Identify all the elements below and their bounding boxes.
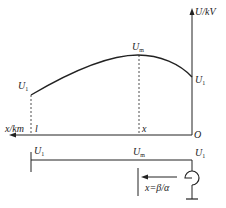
x-axis-label: x/km bbox=[5, 124, 24, 134]
curve-label-left: U1 bbox=[18, 81, 28, 92]
voltage-curve bbox=[31, 55, 192, 95]
shunt-reactor-icon bbox=[192, 171, 199, 185]
x-end-label: l bbox=[35, 124, 38, 134]
line-label-right: U1 bbox=[195, 148, 205, 159]
arrow-label: x=β/α bbox=[145, 183, 169, 193]
line-label-mid: Um bbox=[133, 147, 145, 158]
diagram-graphics bbox=[0, 0, 226, 208]
y-axis-arrow-icon bbox=[190, 8, 195, 15]
x-mid-label: x bbox=[142, 124, 146, 134]
curve-label-peak: Um bbox=[132, 42, 144, 53]
origin-label: O bbox=[194, 130, 201, 140]
voltage-distribution-diagram: U/kV x/km l x O U1 Um U1 U1 Um U1 x=β/α bbox=[0, 0, 226, 208]
curve-label-right: U1 bbox=[195, 75, 205, 86]
y-axis-label: U/kV bbox=[195, 7, 216, 17]
distance-arrow-head-icon bbox=[141, 175, 148, 180]
line-label-left: U1 bbox=[34, 146, 44, 157]
